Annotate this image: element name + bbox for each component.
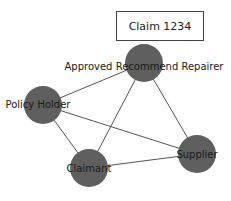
graph-edges: [43, 63, 197, 168]
node-su[interactable]: Supplier: [176, 135, 218, 173]
edge-ph-su: [43, 105, 197, 154]
node-arr[interactable]: Approved Recommend Repairer: [65, 44, 225, 82]
node-label: Claimant: [67, 163, 112, 174]
graph-nodes: Approved Recommend RepairerPolicy Holder…: [6, 44, 225, 187]
node-ph[interactable]: Policy Holder: [6, 86, 72, 124]
node-label: Supplier: [176, 149, 218, 160]
node-cl[interactable]: Claimant: [67, 149, 112, 187]
node-label: Approved Recommend Repairer: [65, 61, 225, 72]
node-label: Policy Holder: [6, 99, 72, 110]
relationship-graph: Approved Recommend RepairerPolicy Holder…: [0, 0, 231, 201]
